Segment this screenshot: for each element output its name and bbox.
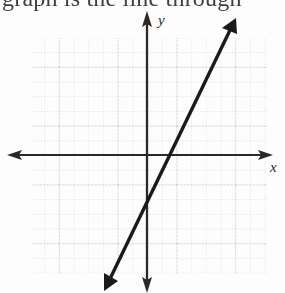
x-axis-label: x <box>269 159 277 175</box>
figure-page: graph is the line through <box>0 0 285 293</box>
y-axis-label: y <box>156 12 165 28</box>
coordinate-graph: y x <box>0 8 285 293</box>
